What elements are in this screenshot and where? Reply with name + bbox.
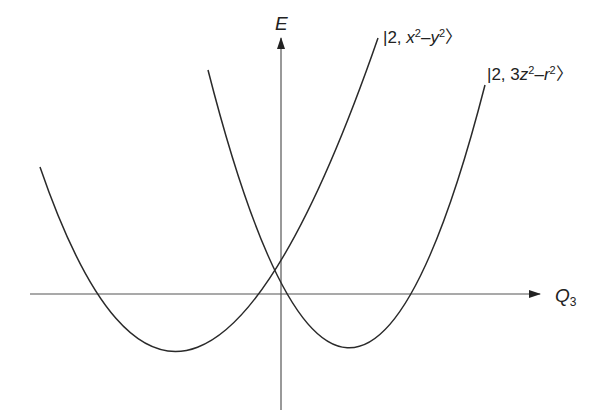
var-z: z	[520, 65, 529, 84]
q-symbol: Q	[555, 285, 570, 306]
var-x: x	[406, 28, 415, 47]
diagram-canvas	[0, 0, 611, 416]
q-subscript: 3	[570, 295, 577, 309]
var-y: y	[430, 28, 439, 47]
curve-x2-y2	[40, 38, 378, 351]
minus: –	[534, 65, 543, 84]
curve-label-x2-y2: |2, x2–y2〉	[383, 28, 462, 46]
ket-close: 〉	[445, 28, 462, 47]
energy-axis-label: E	[275, 14, 288, 33]
curve-label-3z2-r2: |2, 3z2–r2〉	[487, 65, 573, 83]
ket-prefix: |2, 3	[487, 65, 520, 84]
ket-close: 〉	[556, 65, 573, 84]
q3-axis-label: Q3	[555, 286, 576, 308]
minus: –	[421, 28, 430, 47]
ket-prefix: |2,	[383, 28, 406, 47]
